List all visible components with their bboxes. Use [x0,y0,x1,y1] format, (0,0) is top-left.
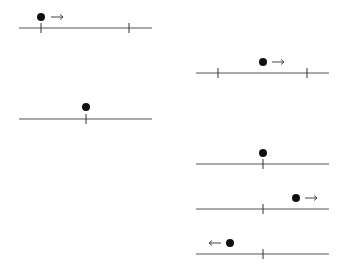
particle-dot [37,13,45,21]
panel-2 [19,103,152,124]
particle-dot [82,103,90,111]
arrow-right-icon [272,60,284,65]
particle-dot [292,194,300,202]
particle-dot [259,58,267,66]
arrow-left-icon [209,241,221,246]
particle-dot [226,239,234,247]
panel-5 [196,194,329,214]
particle-dot [259,149,267,157]
panel-6 [196,239,329,259]
motion-diagram [0,0,344,272]
panel-4 [196,149,329,169]
arrow-right-icon [305,196,317,201]
panel-3 [196,58,329,78]
arrow-right-icon [51,15,63,20]
panel-1 [19,13,152,33]
